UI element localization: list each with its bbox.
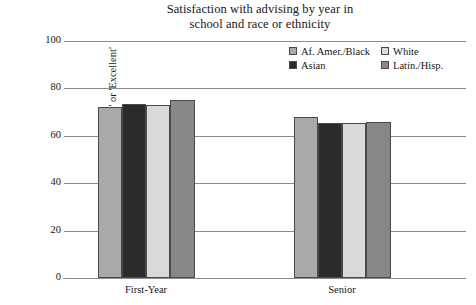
chart-title-line-2: school and race or ethnicity xyxy=(60,17,460,32)
y-tick-label-0: 0 xyxy=(31,271,61,282)
x-axis-line xyxy=(63,278,466,279)
bar xyxy=(170,100,194,278)
tick-mark-100 xyxy=(64,41,71,42)
bar xyxy=(318,123,342,278)
bar xyxy=(98,107,122,278)
x-category-label-1: Senior xyxy=(292,284,392,295)
plot-area: Percent 'Good' or 'Excellent' xyxy=(71,41,466,278)
tick-mark-40 xyxy=(64,183,71,184)
bar xyxy=(366,122,390,278)
bar xyxy=(146,105,170,278)
bar xyxy=(294,117,318,278)
x-category-label-0: First-Year xyxy=(96,284,196,295)
gridline-100 xyxy=(71,41,466,42)
y-tick-label-20: 20 xyxy=(31,224,61,235)
y-tick-label-100: 100 xyxy=(31,34,61,45)
gridline-80 xyxy=(71,88,466,89)
bar xyxy=(342,123,366,278)
chart-title-line-1: Satisfaction with advising by year in xyxy=(60,2,460,17)
tick-mark-80 xyxy=(64,88,71,89)
y-tick-label-60: 60 xyxy=(31,129,61,140)
bar xyxy=(122,104,146,278)
chart-container: Satisfaction with advising by year in sc… xyxy=(0,0,476,305)
tick-mark-60 xyxy=(64,136,71,137)
y-tick-label-80: 80 xyxy=(31,81,61,92)
y-tick-label-40: 40 xyxy=(31,176,61,187)
chart-title: Satisfaction with advising by year in sc… xyxy=(60,2,460,32)
tick-mark-20 xyxy=(64,231,71,232)
